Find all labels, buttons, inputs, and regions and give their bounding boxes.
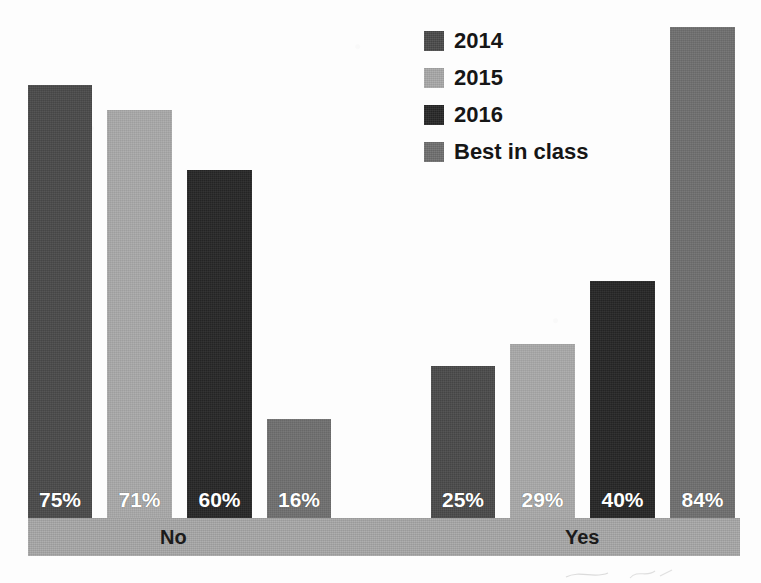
bar: 71% — [107, 110, 172, 518]
plot-area: 75%71%60%16%25%29%40%84% — [0, 0, 761, 583]
bar-texture — [590, 281, 655, 518]
bar-texture — [107, 110, 172, 518]
bar-value-label: 60% — [187, 488, 252, 512]
bar-value-label: 71% — [107, 488, 172, 512]
bar: 40% — [590, 281, 655, 518]
legend-swatch-icon — [424, 105, 444, 125]
bar-value-label: 25% — [431, 488, 495, 512]
bar-value-label: 16% — [267, 488, 331, 512]
chart-legend: 201420152016Best in class — [424, 22, 589, 170]
legend-item-label: 2016 — [454, 102, 503, 128]
bar: 16% — [267, 419, 331, 518]
legend-swatch-icon — [424, 142, 444, 162]
bar: 29% — [510, 344, 575, 518]
bar: 25% — [431, 366, 495, 518]
bar-chart-figure: 75%71%60%16%25%29%40%84% NoYes 201420152… — [0, 0, 761, 583]
bar-texture — [670, 27, 735, 518]
category-axis-band: NoYes — [28, 518, 740, 556]
axis-category-label: No — [160, 526, 187, 549]
legend-swatch-icon — [424, 31, 444, 51]
bar-value-label: 29% — [510, 488, 575, 512]
legend-item[interactable]: 2015 — [424, 59, 589, 96]
legend-item[interactable]: 2014 — [424, 22, 589, 59]
bar-texture — [28, 85, 92, 518]
bar: 84% — [670, 27, 735, 518]
legend-swatch-icon — [424, 68, 444, 88]
bar: 60% — [187, 170, 252, 518]
bar-value-label: 84% — [670, 488, 735, 512]
axis-category-label: Yes — [565, 526, 599, 549]
bar: 75% — [28, 85, 92, 518]
legend-item-label: 2014 — [454, 28, 503, 54]
legend-item-label: Best in class — [454, 139, 589, 165]
bar-value-label: 40% — [590, 488, 655, 512]
bar-value-label: 75% — [28, 488, 92, 512]
legend-item-label: 2015 — [454, 65, 503, 91]
legend-item[interactable]: Best in class — [424, 133, 589, 170]
legend-item[interactable]: 2016 — [424, 96, 589, 133]
bar-texture — [187, 170, 252, 518]
